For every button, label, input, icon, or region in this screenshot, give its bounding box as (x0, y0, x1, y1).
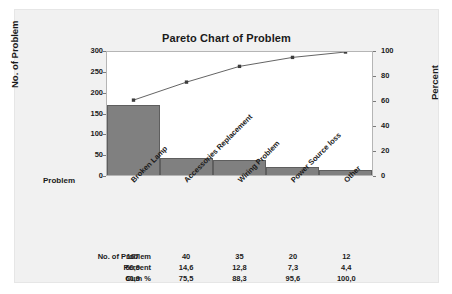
plot-area (106, 51, 373, 176)
table-cell: 60,9 (104, 262, 162, 273)
y-right-tick-label: 0 (376, 172, 407, 180)
y-left-tick-label: 150 (77, 110, 103, 118)
y-left-tick-mark (103, 114, 106, 115)
table-cell: 75,5 (157, 273, 215, 284)
y-left-tick-label: 250 (77, 68, 103, 76)
cum-line-marker (185, 80, 188, 83)
data-table: No. of Problem16740352012Percent60,914,6… (29, 251, 429, 284)
cum-line-marker (344, 52, 347, 54)
cumulative-percent-line (107, 52, 372, 175)
category-labels: Broken LampAccessories ReplacementWiring… (106, 178, 373, 240)
y-left-tick-mark (103, 155, 106, 156)
table-cell: 100,0 (317, 273, 375, 284)
chart-title: Pareto Chart of Problem (15, 32, 438, 44)
cum-line-marker (132, 98, 135, 101)
pareto-chart-screenshot: Pareto Chart of Problem No. of Problem P… (0, 0, 452, 294)
table-cell: 7,3 (264, 262, 322, 273)
category-axis-label: Problem (43, 176, 75, 185)
y-left-tick-label: 100 (77, 131, 103, 139)
table-row: No. of Problem16740352012 (29, 251, 429, 262)
y-right-tick-mark (373, 51, 376, 52)
table-cell: 35 (211, 251, 269, 262)
chart-card: Pareto Chart of Problem No. of Problem P… (14, 9, 439, 283)
y-right-tick-mark (373, 101, 376, 102)
y-left-tick-mark (103, 134, 106, 135)
y-left-tick-mark (103, 176, 106, 177)
y-right-tick-mark (373, 126, 376, 127)
y-left-tick-label: 50 (77, 151, 103, 159)
table-cell: 14,6 (157, 262, 215, 273)
cum-line-marker (291, 56, 294, 59)
y-right-tick-label: 60 (376, 97, 407, 105)
y-left-tick-mark (103, 51, 106, 52)
table-cell: 40 (157, 251, 215, 262)
y-right-tick-label: 40 (376, 122, 407, 130)
y-axis-left-ticks: 300250200150100500 (77, 51, 103, 176)
table-cell: 4,4 (317, 262, 375, 273)
y-right-tick-mark (373, 176, 376, 177)
y-axis-left-title: No. of Problem (9, 20, 20, 88)
table-cell: 167 (104, 251, 162, 262)
y-right-tick-label: 20 (376, 147, 407, 155)
y-right-tick-label: 80 (376, 72, 407, 80)
y-left-tick-label: 300 (77, 47, 103, 55)
y-right-tick-mark (373, 76, 376, 77)
y-right-tick-label: 100 (376, 47, 407, 55)
table-row: Percent60,914,612,87,34,4 (29, 262, 429, 273)
table-row: Cum %60,975,588,395,6100,0 (29, 273, 429, 284)
table-cell: 95,6 (264, 273, 322, 284)
y-left-tick-mark (103, 93, 106, 94)
y-left-tick-label: 200 (77, 89, 103, 97)
y-axis-right-ticks: 100806040200 (376, 51, 402, 176)
table-cell: 60,9 (104, 273, 162, 284)
cum-line-path (134, 52, 346, 100)
y-left-tick-mark (103, 72, 106, 73)
y-left-tick-label: 0 (77, 172, 103, 180)
cum-line-marker (238, 65, 241, 68)
y-right-tick-mark (373, 151, 376, 152)
table-cell: 12 (317, 251, 375, 262)
y-axis-right-title: Percent (429, 65, 440, 100)
table-cell: 12,8 (211, 262, 269, 273)
table-cell: 88,3 (211, 273, 269, 284)
table-cell: 20 (264, 251, 322, 262)
